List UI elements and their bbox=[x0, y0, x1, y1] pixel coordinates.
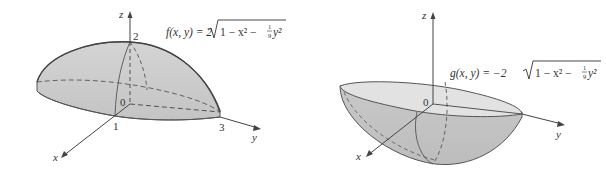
lower-ellipsoid-plot: z y x 0 g(x, y) = −2 1 − x² − 1 9 y² bbox=[300, 0, 606, 172]
svg-text:1: 1 bbox=[583, 64, 586, 71]
svg-text:y²: y² bbox=[587, 67, 597, 80]
figure-lower-half-ellipsoid: z y x 0 g(x, y) = −2 1 − x² − 1 9 y² bbox=[300, 0, 606, 172]
svg-text:y²: y² bbox=[272, 26, 282, 39]
formula-g: g(x, y) = −2 1 − x² − 1 9 y² bbox=[450, 61, 601, 80]
y-axis-label: y bbox=[555, 128, 561, 140]
svg-text:1 − x² −: 1 − x² − bbox=[535, 67, 572, 79]
x-tick-label: 1 bbox=[113, 120, 119, 132]
svg-text:1: 1 bbox=[268, 23, 271, 30]
x-axis-label: x bbox=[52, 151, 58, 163]
upper-ellipsoid-plot: z y x 2 0 1 3 f(x, y) = 2 1 − x² − 1 9 y… bbox=[0, 0, 300, 172]
svg-text:f(x, y) = 2: f(x, y) = 2 bbox=[166, 26, 212, 39]
x-axis-label: x bbox=[355, 150, 361, 162]
z-axis-label: z bbox=[118, 8, 124, 20]
svg-text:9: 9 bbox=[583, 73, 586, 80]
formula-f: f(x, y) = 2 1 − x² − 1 9 y² bbox=[166, 20, 286, 39]
y-axis bbox=[220, 117, 258, 128]
y-axis-label: y bbox=[251, 131, 257, 143]
svg-text:1 − x² −: 1 − x² − bbox=[220, 26, 257, 38]
z-axis-label: z bbox=[421, 9, 427, 21]
svg-text:g(x, y) = −2: g(x, y) = −2 bbox=[450, 67, 507, 80]
svg-text:9: 9 bbox=[268, 32, 271, 39]
y-tick-label: 3 bbox=[219, 121, 225, 133]
origin-label: 0 bbox=[120, 96, 126, 108]
origin-label: 0 bbox=[423, 96, 429, 108]
figure-upper-half-ellipsoid: z y x 2 0 1 3 f(x, y) = 2 1 − x² − 1 9 y… bbox=[0, 0, 300, 172]
z-tick-label: 2 bbox=[133, 30, 139, 42]
y-axis bbox=[522, 114, 562, 124]
